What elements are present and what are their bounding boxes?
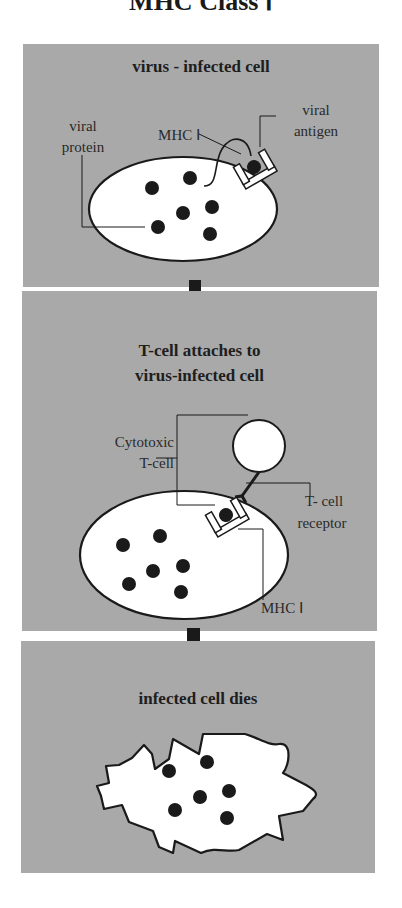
infected-cell-illustration [23, 44, 379, 287]
t-cell-attach-illustration [22, 291, 377, 631]
panel-t-cell-attaches: T-cell attaches to virus-infected cell C… [22, 291, 377, 631]
panel-infected-cell-dies: infected cell dies [21, 641, 375, 873]
panel-virus-infected-cell: virus - infected cell viral protein MHC … [23, 44, 379, 287]
dying-cell-illustration [21, 641, 375, 873]
